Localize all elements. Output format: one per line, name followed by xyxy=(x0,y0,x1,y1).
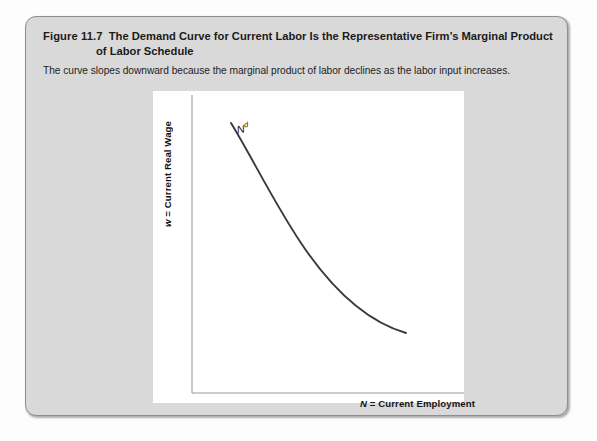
x-axis-label: N = Current Employment xyxy=(360,398,475,409)
plot-panel xyxy=(153,91,464,403)
figure-card: Figure 11.7 The Demand Curve for Current… xyxy=(25,16,568,416)
y-axis-variable: w xyxy=(162,219,173,227)
figure-title: The Demand Curve for Current Labor Is th… xyxy=(96,30,553,57)
curve-label-nd: Nd xyxy=(235,120,249,136)
demand-curve-path xyxy=(231,123,406,333)
y-axis-label-text: = Current Real Wage xyxy=(162,121,173,219)
y-axis-label: w = Current Real Wage xyxy=(162,121,176,227)
figure-caption: Figure 11.7 The Demand Curve for Current… xyxy=(43,29,559,78)
figure-page: Figure 11.7 The Demand Curve for Current… xyxy=(0,0,597,441)
figure-number: Figure 11.7 xyxy=(43,30,103,42)
x-axis-label-text: = Current Employment xyxy=(367,398,475,409)
figure-subtitle: The curve slopes downward because the ma… xyxy=(43,64,559,78)
demand-curve-chart xyxy=(153,91,464,403)
x-axis-variable: N xyxy=(360,398,367,409)
caption-title-line: Figure 11.7 The Demand Curve for Current… xyxy=(43,29,559,59)
